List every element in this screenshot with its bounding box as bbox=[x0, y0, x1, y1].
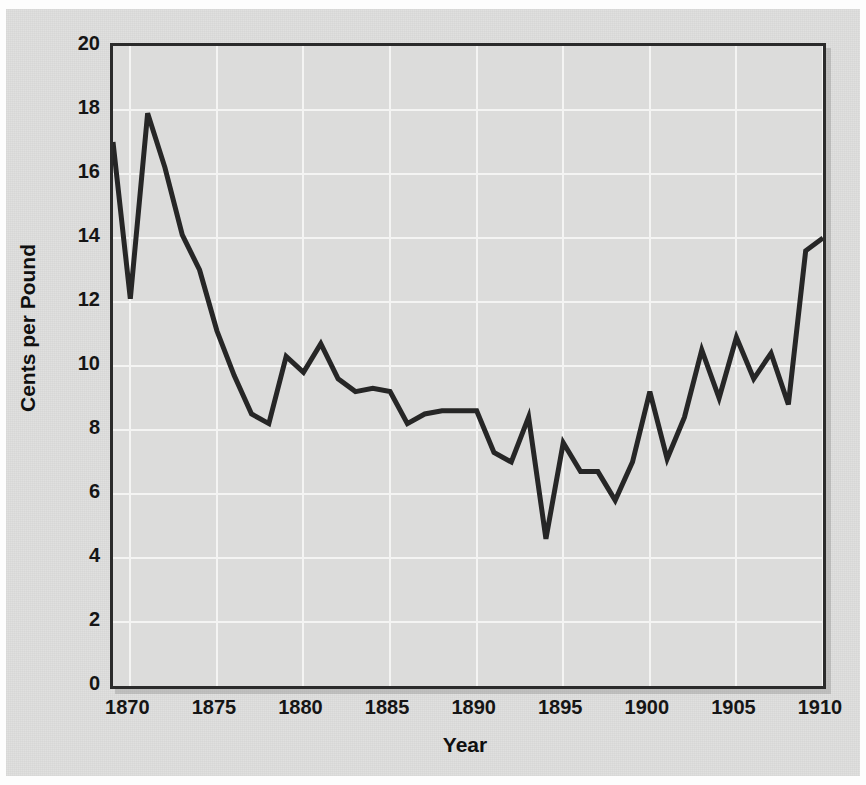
x-tick-label: 1875 bbox=[169, 697, 259, 717]
y-tick-label: 2 bbox=[54, 609, 100, 629]
line-series-svg bbox=[113, 46, 823, 686]
y-axis-title: Cents per Pound bbox=[16, 218, 40, 438]
plot-area bbox=[110, 43, 826, 689]
y-tick-label: 10 bbox=[54, 353, 100, 373]
x-tick-label: 1890 bbox=[429, 697, 519, 717]
x-tick-label: 1905 bbox=[688, 697, 778, 717]
x-tick-label: 1895 bbox=[515, 697, 605, 717]
y-axis-ticks: 02468101214161820 bbox=[48, 43, 100, 683]
line-series-path bbox=[113, 113, 823, 539]
x-tick-label: 1880 bbox=[255, 697, 345, 717]
y-tick-label: 16 bbox=[54, 161, 100, 181]
x-tick-label: 1885 bbox=[342, 697, 432, 717]
y-tick-label: 4 bbox=[54, 545, 100, 565]
x-tick-label: 1870 bbox=[82, 697, 172, 717]
x-tick-label: 1910 bbox=[775, 697, 865, 717]
y-tick-label: 20 bbox=[54, 33, 100, 53]
y-tick-label: 12 bbox=[54, 289, 100, 309]
figure: 02468101214161820 1870187518801885189018… bbox=[0, 0, 866, 785]
x-axis-title: Year bbox=[110, 733, 820, 757]
y-tick-label: 8 bbox=[54, 417, 100, 437]
x-tick-label: 1900 bbox=[602, 697, 692, 717]
y-tick-label: 14 bbox=[54, 225, 100, 245]
plot-inner bbox=[113, 46, 823, 686]
y-tick-label: 0 bbox=[54, 673, 100, 693]
x-axis-ticks: 187018751880188518901895190019051910 bbox=[110, 697, 820, 723]
y-tick-label: 18 bbox=[54, 97, 100, 117]
y-tick-label: 6 bbox=[54, 481, 100, 501]
